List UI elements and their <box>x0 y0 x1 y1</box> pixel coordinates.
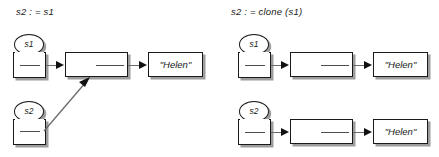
clone-object-s2-pointer-stub <box>321 132 349 133</box>
clone-variable-s2-pointer-stub <box>245 132 265 133</box>
clone-oval-s2-seam-mask <box>240 119 269 122</box>
clone-arrow-object-to-value-head-s1 <box>364 61 372 69</box>
clone-value-box-helen-s1: "Helen" <box>373 52 428 77</box>
clone-object-s1-pointer-stub <box>321 65 349 66</box>
arrow-s2-diagonal-head <box>79 77 90 87</box>
clone-arrow-s1-to-object-head <box>281 61 289 69</box>
clone-arrow-object-to-value-head-s2 <box>364 128 372 136</box>
clone-value-box-helen-s2-label: "Helen" <box>385 126 417 137</box>
clone-variable-s1-pointer-stub <box>245 65 265 66</box>
diagram-canvas: s2 : = s1 s1 "Helen" s2 s2 : = clone (s1… <box>0 0 439 157</box>
clone-value-box-helen-s2: "Helen" <box>373 119 428 144</box>
right-panel-title: s2 : = clone (s1) <box>231 6 302 17</box>
arrow-s2-diagonal-line <box>44 82 86 131</box>
clone-arrow-s2-to-object-head <box>281 128 289 136</box>
clone-value-box-helen-s1-label: "Helen" <box>385 59 417 70</box>
clone-oval-s1-seam-mask <box>240 52 269 55</box>
clone-variable-s2-label: s2 <box>250 107 259 116</box>
clone-variable-s1-label: s1 <box>250 40 259 49</box>
